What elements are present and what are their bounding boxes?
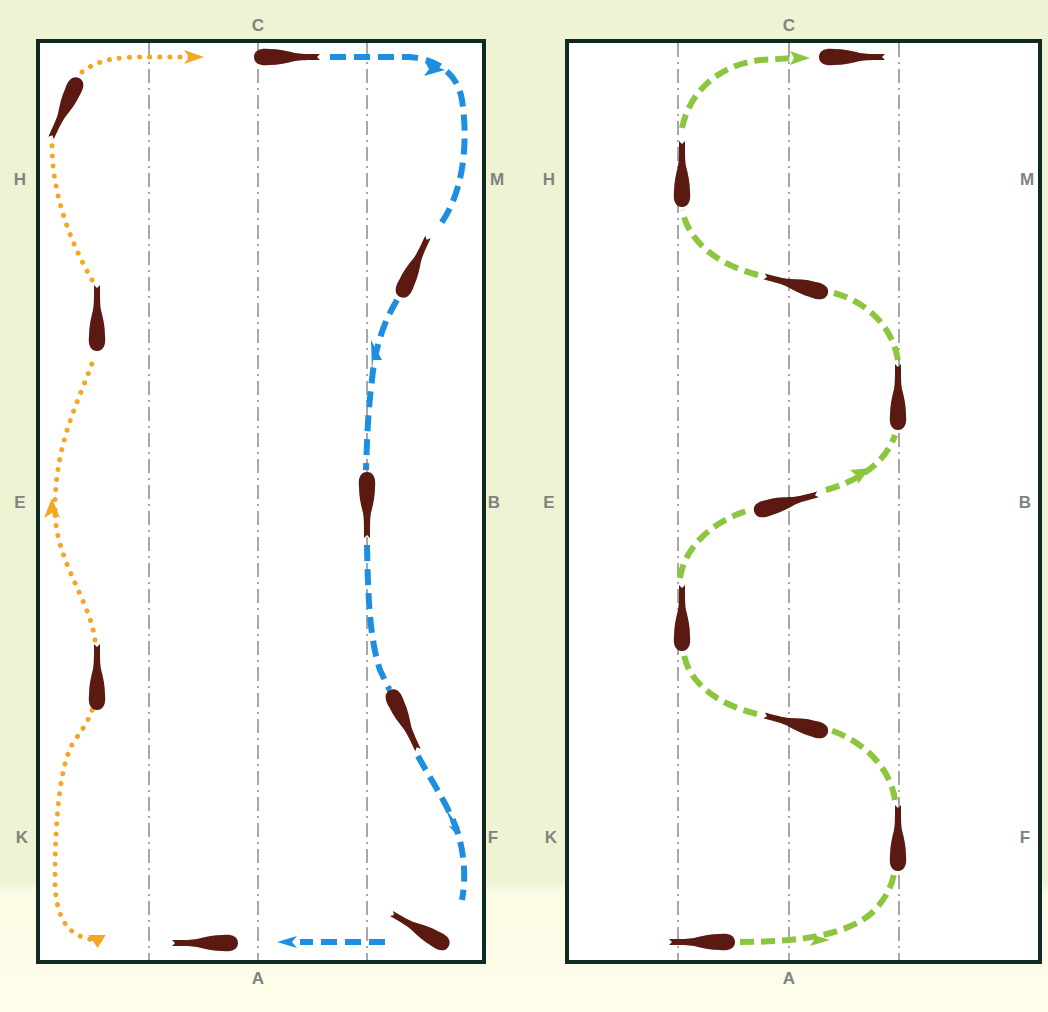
letter-e: E [14,493,25,513]
right-arena [567,41,1040,962]
letter-e: E [543,493,554,513]
arena-diagram [0,0,1048,1012]
letter-b: B [1019,493,1031,513]
letter-k: K [16,828,28,848]
letter-b: B [488,493,500,513]
letter-c: C [783,16,795,36]
letter-m: M [490,170,504,190]
left-arena [38,41,484,962]
arena-border [38,41,484,962]
letter-h: H [14,170,26,190]
letter-m: M [1020,170,1034,190]
letter-f: F [488,828,498,848]
letter-a: A [252,969,264,989]
letter-a: A [783,969,795,989]
letter-f: F [1020,828,1030,848]
letter-c: C [252,16,264,36]
letter-h: H [543,170,555,190]
letter-k: K [545,828,557,848]
